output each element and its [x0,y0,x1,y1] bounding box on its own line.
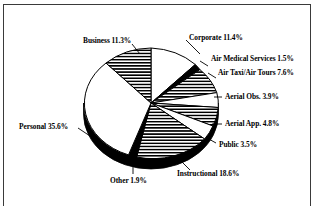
label-public: Public 3.5% [219,140,257,149]
leader-air-medical [200,61,208,66]
label-aerial-app: Aerial App. 4.8% [225,119,279,128]
label-corporate: Corporate 11.4% [189,33,243,42]
leader-air-taxi [208,73,216,78]
label-personal: Personal 35.6% [19,122,68,131]
label-instructional: Instructional 18.6% [177,169,239,178]
pie-chart: Business 11.3% Corporate 11.4% Air Medic… [0,0,321,206]
label-aerial-obs: Aerial Obs. 3.9% [225,92,279,101]
label-business: Business 11.3% [83,36,131,45]
label-other: Other 1.9% [110,176,147,185]
pie-slices [84,48,218,159]
pie-chart-svg [0,0,321,206]
leader-corporate [186,40,200,54]
label-air-medical-services: Air Medical Services 1.5% [211,54,294,63]
label-air-taxi-air-tours: Air Taxi/Air Tours 7.6% [218,68,294,77]
